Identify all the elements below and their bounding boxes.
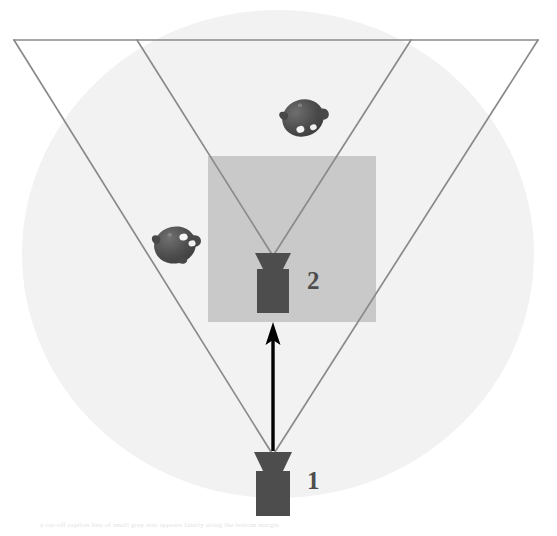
camera-frustum-diagram: [0, 0, 557, 536]
camera-1-body: [256, 471, 290, 516]
camera-2[interactable]: [255, 253, 291, 313]
camera-2-body: [257, 269, 289, 313]
figure-root: 2 1 a cut-off caption line of small grey…: [0, 0, 557, 536]
camera-1-label: 1: [307, 468, 320, 493]
camera-1[interactable]: [254, 452, 292, 516]
figure-caption: a cut-off caption line of small grey tex…: [40, 521, 520, 530]
camera-2-label: 2: [307, 268, 320, 293]
region-of-interest-rect: [208, 156, 376, 322]
